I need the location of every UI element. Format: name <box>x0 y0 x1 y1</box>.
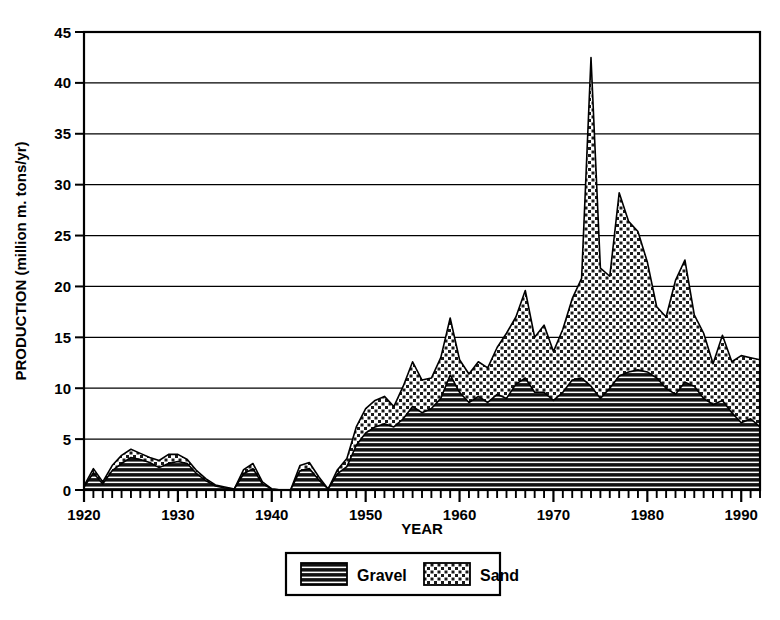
y-axis-title: PRODUCTION (million m. tons/yr) <box>12 141 29 380</box>
y-tick-label: 30 <box>54 176 71 193</box>
y-tick-label: 35 <box>54 125 71 142</box>
x-tick-label: 1990 <box>725 506 758 523</box>
legend-label-gravel: Gravel <box>357 567 407 584</box>
x-tick-label: 1930 <box>161 506 194 523</box>
chart-figure: 051015202530354045 192019301940195019601… <box>0 0 780 620</box>
y-tick-label: 45 <box>54 24 71 41</box>
y-tick-label: 5 <box>63 431 71 448</box>
x-tick-label: 1940 <box>255 506 288 523</box>
x-axis-title: YEAR <box>401 520 443 537</box>
y-tick-label: 15 <box>54 329 71 346</box>
x-tick-label: 1960 <box>443 506 476 523</box>
y-tick-label: 20 <box>54 278 71 295</box>
y-tick-label: 25 <box>54 227 71 244</box>
x-tick-label: 1980 <box>631 506 664 523</box>
x-tick-label: 1970 <box>537 506 570 523</box>
legend-label-sand: Sand <box>480 567 519 584</box>
production-area-chart: 051015202530354045 192019301940195019601… <box>0 0 780 620</box>
legend-swatch-gravel <box>301 563 347 585</box>
y-tick-label: 0 <box>63 482 71 499</box>
chart-background <box>0 0 780 620</box>
chart-legend: Gravel Sand <box>286 553 519 595</box>
x-tick-label: 1950 <box>349 506 382 523</box>
x-tick-label: 1920 <box>67 506 100 523</box>
y-tick-label: 10 <box>54 380 71 397</box>
legend-swatch-sand <box>424 563 470 585</box>
y-tick-label: 40 <box>54 74 71 91</box>
